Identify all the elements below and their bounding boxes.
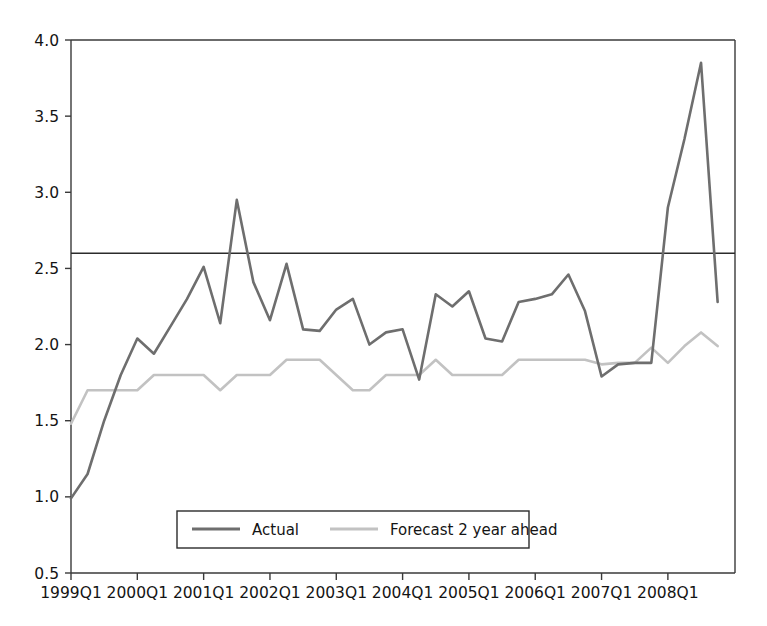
x-tick-label: 2006Q1 xyxy=(504,584,566,602)
y-tick-label: 2.5 xyxy=(34,260,59,278)
x-tick-label: 2001Q1 xyxy=(173,584,235,602)
x-tick-label: 2004Q1 xyxy=(372,584,434,602)
plot-area-background xyxy=(71,40,735,573)
x-tick-label: 2002Q1 xyxy=(239,584,301,602)
legend-label-forecast: Forecast 2 year ahead xyxy=(390,521,557,539)
chart-container: 0.51.01.52.02.53.03.54.0 1999Q12000Q1200… xyxy=(0,0,767,626)
y-tick-label: 1.0 xyxy=(34,488,59,506)
x-tick-label: 2005Q1 xyxy=(438,584,500,602)
y-tick-label: 1.5 xyxy=(34,412,59,430)
y-axis-ticks: 0.51.01.52.02.53.03.54.0 xyxy=(34,32,71,583)
line-chart: 0.51.01.52.02.53.03.54.0 1999Q12000Q1200… xyxy=(0,0,767,626)
x-tick-label: 2008Q1 xyxy=(637,584,699,602)
legend-label-actual: Actual xyxy=(252,521,299,539)
x-tick-label: 1999Q1 xyxy=(40,584,102,602)
x-tick-label: 2003Q1 xyxy=(306,584,368,602)
chart-legend: Actual Forecast 2 year ahead xyxy=(177,511,557,548)
y-tick-label: 4.0 xyxy=(34,32,59,50)
y-tick-label: 3.5 xyxy=(34,108,59,126)
x-tick-label: 2007Q1 xyxy=(571,584,633,602)
y-tick-label: 3.0 xyxy=(34,184,59,202)
x-tick-label: 2000Q1 xyxy=(107,584,169,602)
x-axis-ticks: 1999Q12000Q12001Q12002Q12003Q12004Q12005… xyxy=(40,573,698,602)
y-tick-label: 0.5 xyxy=(34,565,59,583)
y-tick-label: 2.0 xyxy=(34,336,59,354)
